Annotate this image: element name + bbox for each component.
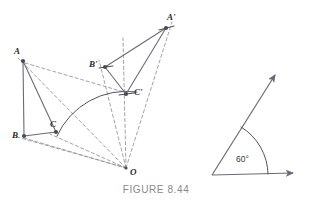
point-o xyxy=(124,166,127,169)
geometry-canvas xyxy=(0,0,312,203)
triangle-a-prime-b-prime-c-prime xyxy=(105,28,166,94)
angle-diagram-group xyxy=(212,75,293,175)
label-c-prime: C' xyxy=(134,88,143,97)
dash-a-to-c-prime xyxy=(25,63,124,92)
figure-caption: FIGURE 8.44 xyxy=(0,184,312,195)
label-b-prime: B' xyxy=(89,60,98,69)
label-c: C xyxy=(50,120,56,129)
point-a xyxy=(21,59,25,63)
point-b-prime xyxy=(103,65,107,69)
segment-b-prime-c-prime xyxy=(105,67,126,94)
ray-o-to-a xyxy=(18,58,126,168)
segment-a-prime-b-prime xyxy=(105,28,166,67)
angle-horizontal-ray xyxy=(212,173,293,175)
arc-tick-marks-group xyxy=(99,26,174,95)
dash-b-to-o-lower xyxy=(24,138,126,168)
ray-o-to-c xyxy=(50,134,126,168)
point-c xyxy=(54,130,58,134)
label-a: A xyxy=(14,47,20,56)
point-a-prime xyxy=(164,26,168,30)
image-correspondence-dashes xyxy=(24,63,126,168)
label-a-prime: A' xyxy=(167,13,176,22)
label-o: O xyxy=(130,168,137,177)
label-sixty-degrees: 60° xyxy=(236,155,249,164)
point-c-prime xyxy=(124,92,128,96)
figure-8-44: A B C A' B' C' O 60° FIGURE 8.44 xyxy=(0,0,312,203)
construction-rays-group xyxy=(17,22,172,168)
ray-o-to-c-prime xyxy=(123,38,126,168)
ray-o-to-a-prime xyxy=(126,22,172,168)
segment-bc xyxy=(24,132,56,136)
point-b xyxy=(22,134,26,138)
angle-arc xyxy=(241,127,268,174)
label-b: B xyxy=(12,131,18,140)
segment-ab xyxy=(23,61,24,136)
